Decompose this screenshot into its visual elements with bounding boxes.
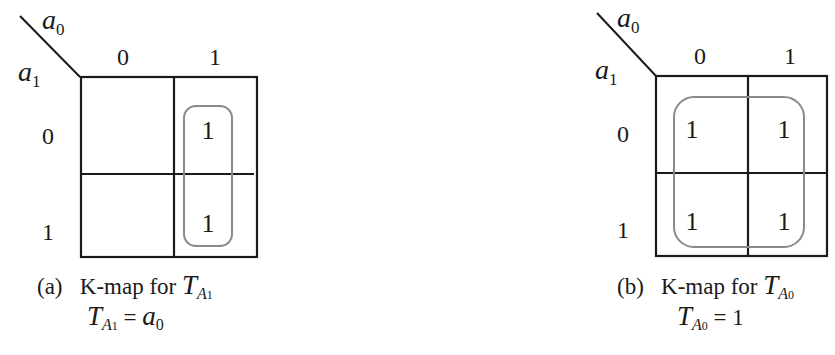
kmap-a-col-label-0: 0 [117, 45, 129, 69]
kmap-b-row-label-0: 0 [617, 122, 629, 146]
kmap-a-border [81, 77, 257, 257]
kmap-b-cell-10: 1 [682, 209, 702, 235]
kmap-a-grid [20, 16, 257, 257]
kmap-b-row-var: a1 [595, 56, 618, 88]
kmap-a-row-label-0: 0 [42, 124, 54, 148]
kmap-b-cell-11: 1 [774, 209, 794, 235]
kmap-a-row-var: a1 [18, 58, 41, 90]
kmap-a-cell-11: 1 [198, 211, 218, 237]
kmap-a-col-label-1: 1 [209, 45, 221, 69]
kmap-a-cell-01: 1 [198, 118, 218, 144]
kmap-b-equation: TA0 = 1 [677, 303, 744, 333]
kmap-b-col-label-0: 0 [694, 44, 706, 68]
kmap-b-row-label-1: 1 [617, 218, 629, 242]
kmap-b-cell-00: 1 [682, 117, 702, 143]
kmap-b-cell-01: 1 [774, 117, 794, 143]
kmap-b-col-label-1: 1 [784, 44, 796, 68]
kmap-a-caption: (a) K-map for TA1 [37, 272, 213, 302]
kmap-a-row-label-1: 1 [42, 220, 54, 244]
kmap-a-col-var: a0 [42, 6, 65, 38]
kmap-b-caption: (b) K-map for TA0 [617, 272, 794, 302]
kmap-a-equation: TA1 = a0 [87, 303, 164, 333]
kmap-b-col-var: a0 [617, 4, 640, 36]
